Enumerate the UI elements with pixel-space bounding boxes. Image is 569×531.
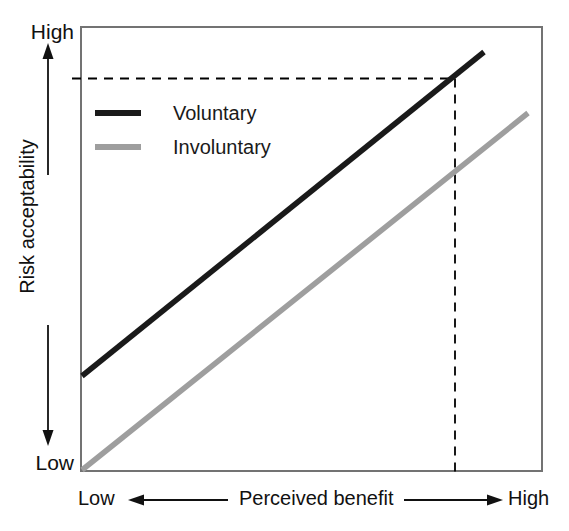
- x-axis-high-label: High: [508, 487, 549, 510]
- x-axis-low-label: Low: [78, 487, 115, 510]
- x-axis-title: Perceived benefit: [239, 487, 394, 510]
- legend-label-voluntary: Voluntary: [173, 103, 256, 123]
- legend-item-involuntary: Involuntary: [95, 130, 325, 164]
- legend-item-voluntary: Voluntary: [95, 96, 325, 130]
- y-axis-low-label: Low: [0, 451, 74, 475]
- risk-acceptability-chart: Voluntary Involuntary High Risk acceptab…: [0, 0, 569, 531]
- legend-label-involuntary: Involuntary: [173, 137, 271, 157]
- x-axis: Low Perceived benefit High: [0, 484, 569, 520]
- legend-swatch-voluntary: [95, 110, 141, 116]
- y-axis-title: Risk acceptability: [16, 117, 39, 317]
- legend-swatch-involuntary: [95, 144, 141, 150]
- y-axis-high-label: High: [0, 20, 74, 44]
- plot-area: [80, 26, 543, 472]
- chart-legend: Voluntary Involuntary: [95, 96, 325, 164]
- y-axis: High Risk acceptability Low: [0, 0, 80, 531]
